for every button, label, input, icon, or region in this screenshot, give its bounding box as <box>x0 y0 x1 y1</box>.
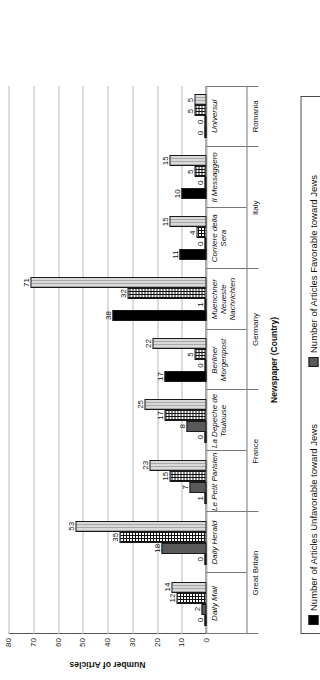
category-tick <box>206 329 246 330</box>
bar[interactable]: 11 <box>179 249 206 260</box>
y-axis-tick-label: 0 <box>202 638 211 642</box>
rotated-chart-wrapper: Number of Articles 01020304050607080 021… <box>0 0 299 680</box>
bar-value-label: 12 <box>168 594 176 603</box>
country-separator-end <box>246 86 258 87</box>
bar-slot: 35 <box>8 532 206 543</box>
bar-slot: 23 <box>8 460 206 471</box>
bar[interactable]: 8 <box>186 421 206 432</box>
bar-slot: 5 <box>8 105 206 116</box>
category-label: Corriere della Sera <box>206 208 246 269</box>
bar-slot: 18 <box>8 543 206 554</box>
bar-slot: 12 <box>8 593 206 604</box>
bar-value-label: 15 <box>161 217 169 226</box>
country-label: Great Britain <box>246 512 268 634</box>
category-label-text: Berliner Morgenpost <box>209 339 227 381</box>
country-label-text: Great Britain <box>250 551 259 596</box>
bar[interactable]: 5 <box>194 105 206 116</box>
bar-value-label: 32 <box>119 289 127 298</box>
category-label-text: Il Messaggero <box>209 152 218 202</box>
bar-value-label: 0 <box>196 120 204 124</box>
bar-group: 021214 <box>8 573 206 634</box>
bar-value-label: 5 <box>186 170 194 174</box>
bar[interactable]: 38 <box>112 310 206 321</box>
bar[interactable]: 17 <box>164 371 206 382</box>
x-axis-title: Newspaper (Country) <box>268 86 278 634</box>
bar[interactable]: 10 <box>181 188 206 199</box>
bar-slot: 32 <box>8 288 206 299</box>
bar-slot: 0 <box>8 554 206 565</box>
bar[interactable]: 25 <box>144 399 206 410</box>
bar-value-label: 17 <box>156 372 164 381</box>
bar-value-label: 0 <box>196 131 204 135</box>
bar[interactable]: 15 <box>169 471 206 482</box>
bar[interactable]: 12 <box>176 593 206 604</box>
country-label: Romania <box>246 86 268 147</box>
category-tick <box>206 146 246 147</box>
category-label-text: Daily Mail <box>209 586 218 621</box>
category-label: Daily Herald <box>206 512 246 573</box>
bar-value-label: 35 <box>111 533 119 542</box>
bar-slot: 15 <box>8 216 206 227</box>
bar-slot: 71 <box>8 277 206 288</box>
bar-slot: 0 <box>8 432 206 443</box>
bar-group: 171523 <box>8 451 206 512</box>
y-axis-tick-label: 60 <box>53 638 62 647</box>
country-separator <box>246 633 258 634</box>
category-label-text: Universul <box>209 100 218 133</box>
bar-value-label: 4 <box>188 230 196 234</box>
bar-slot: 7 <box>8 482 206 493</box>
bar-value-label: 0 <box>196 241 204 245</box>
bar-slot: 38 <box>8 310 206 321</box>
country-separator <box>246 511 258 512</box>
category-label: Berliner Morgenpost <box>206 330 246 391</box>
bar[interactable]: 4 <box>196 227 206 238</box>
bar[interactable]: 2 <box>201 604 206 615</box>
bar[interactable]: 18 <box>161 543 206 554</box>
category-labels: Daily MailDaily HeraldLe Petit ParisienL… <box>206 86 246 634</box>
bar[interactable]: 71 <box>30 277 206 288</box>
category-tick <box>206 572 246 573</box>
bar-value-label: 22 <box>144 339 152 348</box>
bar-slot: 17 <box>8 410 206 421</box>
bar-slot: 14 <box>8 582 206 593</box>
bar-slot: 2 <box>8 604 206 615</box>
bar[interactable]: 14 <box>171 582 206 593</box>
country-separator <box>246 389 258 390</box>
bar[interactable]: 5 <box>194 166 206 177</box>
bar-value-label: 38 <box>104 311 112 320</box>
category-tick <box>206 511 246 512</box>
category-tick <box>206 268 246 269</box>
bar-slot: 8 <box>8 421 206 432</box>
bar-slot: 5 <box>8 349 206 360</box>
country-label: Italy <box>246 147 268 269</box>
bar[interactable]: 15 <box>169 155 206 166</box>
bar[interactable]: 35 <box>119 532 206 543</box>
bar-value-label: 25 <box>136 400 144 409</box>
bar-group: 3813271 <box>8 269 206 330</box>
bar-slot: 10 <box>8 188 206 199</box>
y-axis-tick-label: 80 <box>4 638 13 647</box>
category-label: Il Messaggero <box>206 147 246 208</box>
bar[interactable]: 23 <box>149 460 206 471</box>
bar[interactable]: 53 <box>75 521 206 532</box>
bar[interactable]: 15 <box>169 216 206 227</box>
bar[interactable]: 32 <box>127 288 206 299</box>
bar[interactable]: 17 <box>164 410 206 421</box>
category-tick <box>206 389 246 390</box>
bar-group: 0055 <box>8 86 206 147</box>
bar-group: 081725 <box>8 390 206 451</box>
bar-group: 110415 <box>8 208 206 269</box>
bar-value-label: 2 <box>193 607 201 611</box>
category-label-text: Daily Herald <box>209 521 218 565</box>
category-tick <box>206 633 246 634</box>
country-labels: Great BritainFranceGermanyItalyRomania <box>246 86 268 634</box>
y-axis-tick-label: 50 <box>78 638 87 647</box>
bar[interactable]: 22 <box>152 338 206 349</box>
bar[interactable]: 7 <box>189 482 206 493</box>
bar[interactable]: 5 <box>194 349 206 360</box>
bar[interactable]: 5 <box>194 94 206 105</box>
bar-value-label: 10 <box>173 189 181 198</box>
bar-group: 170522 <box>8 330 206 391</box>
country-separator <box>246 146 258 147</box>
bar-slot: 0 <box>8 127 206 138</box>
